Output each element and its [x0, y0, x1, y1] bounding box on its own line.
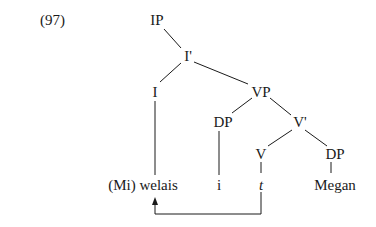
node-ibar: I': [184, 49, 192, 64]
node-dp-obj: DP: [325, 147, 344, 162]
leaf-trace: t: [259, 178, 263, 193]
leaf-megan: Megan: [314, 178, 356, 193]
node-i: I: [153, 85, 158, 100]
node-ip: IP: [150, 13, 163, 28]
leaf-i: i: [217, 178, 221, 193]
leaf-welais: (Mi) welais: [108, 178, 178, 193]
node-vbar: V': [293, 115, 307, 130]
node-vp: VP: [251, 85, 270, 100]
node-v: V: [256, 147, 267, 162]
arrowhead-icon: [152, 197, 158, 205]
node-dp-spec: DP: [213, 115, 232, 130]
